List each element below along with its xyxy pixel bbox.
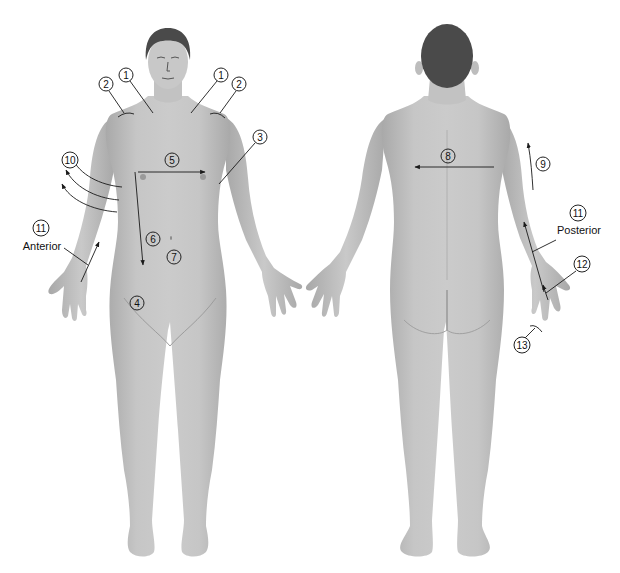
- label-1-left: 1: [119, 68, 134, 83]
- label-11-ant: 11: [33, 220, 50, 237]
- label-4: 4: [130, 296, 145, 311]
- anterior-left-arm: [226, 118, 302, 317]
- label-12: 12: [574, 256, 591, 273]
- posterior-figure: [306, 24, 570, 557]
- label-3: 3: [253, 130, 268, 145]
- leader-line-13: [525, 328, 535, 338]
- anterior-right-arm: [48, 118, 114, 321]
- body-figures: [0, 0, 620, 573]
- caption-anterior: Anterior: [23, 240, 62, 252]
- label-6: 6: [146, 232, 161, 247]
- anatomy-detail: [140, 174, 146, 180]
- label-8: 8: [441, 149, 456, 164]
- anatomical-diagram: 121235101167489111213 AnteriorPosterior: [0, 0, 620, 573]
- label-2-right: 2: [232, 77, 247, 92]
- leader-line-2-right: [220, 91, 236, 113]
- label-2-left: 2: [99, 77, 114, 92]
- label-5: 5: [165, 153, 180, 168]
- anatomy-detail: [170, 236, 172, 240]
- label-1-right: 1: [214, 68, 229, 83]
- anterior-figure: [48, 28, 302, 557]
- arrow-9-superior: [528, 143, 533, 190]
- label-11-post: 11: [570, 205, 587, 222]
- label-13: 13: [514, 337, 531, 354]
- label-10: 10: [62, 152, 79, 169]
- label-7: 7: [167, 250, 182, 265]
- posterior-right-arm: [500, 118, 570, 321]
- posterior-torso: [382, 96, 511, 557]
- anatomy-detail: [200, 174, 206, 180]
- label-9: 9: [536, 157, 551, 172]
- caption-posterior: Posterior: [557, 224, 601, 236]
- posterior-left-arm: [306, 118, 386, 317]
- posterior-head: [421, 24, 473, 88]
- leader-line-2-left: [109, 91, 124, 113]
